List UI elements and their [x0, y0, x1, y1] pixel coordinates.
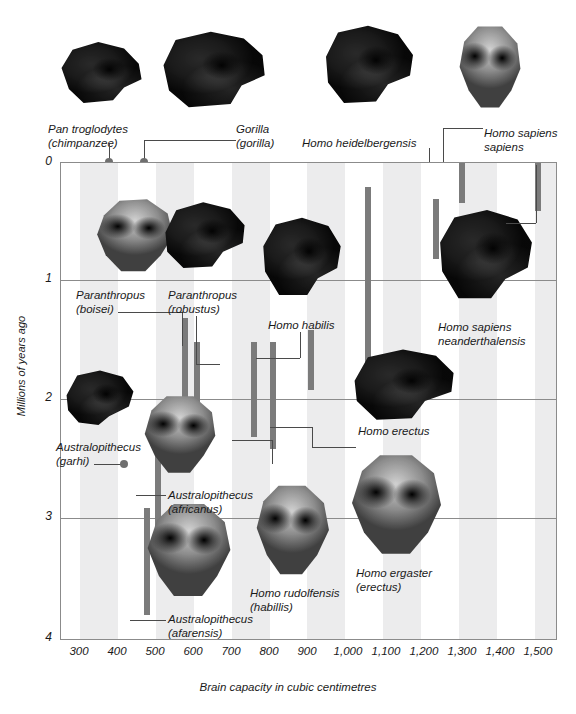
leader-habilis-h [256, 358, 300, 359]
label-homo-sapiens-neanderthalensis: Homo sapiens neanderthalensis [438, 320, 526, 348]
bar-homo-habilis [251, 342, 257, 437]
leader-afarensis-h [130, 620, 166, 621]
leader-erectus-h [270, 427, 312, 428]
leader-rudolfensis-v [272, 440, 273, 464]
label-line1: Paranthropus [168, 289, 237, 301]
ytick-3: 3 [0, 509, 52, 523]
label-line1: Homo rudolfensis [250, 587, 339, 599]
label-line2: (erectus) [356, 580, 432, 594]
top-label-line1: Homo sapiens [484, 127, 558, 139]
figure-root: Pan troglodytes (chimpanzee) Gorilla (go… [0, 0, 576, 714]
leader-gorilla-h [144, 140, 236, 141]
xtick-700: 700 [221, 645, 240, 657]
xtick-600: 600 [183, 645, 202, 657]
bar-homo-ergaster [308, 330, 314, 390]
label-line2: neanderthalensis [438, 334, 526, 348]
xtick-900: 900 [297, 645, 316, 657]
leader-garhi-h [94, 464, 122, 465]
ytick-4: 4 [0, 630, 52, 644]
xtick-1000: 1,000 [334, 645, 363, 657]
skull-gorilla [158, 30, 268, 114]
top-label-line1: Pan troglodytes [48, 123, 128, 135]
label-line2: (afarensis) [168, 626, 253, 640]
label-line2: (garhi) [56, 454, 141, 468]
leader-rudolfensis-h [232, 440, 272, 441]
skull-homo-heidelbergensis [318, 24, 418, 110]
xtick-400: 400 [107, 645, 126, 657]
top-label-line2: sapiens [484, 140, 558, 154]
label-line1: Paranthropus [76, 289, 145, 301]
label-line1: Homo erectus [358, 425, 430, 437]
leader-erectus-h2 [312, 447, 356, 448]
label-line1: Australopithecus [168, 489, 253, 501]
leader-africanus-h [136, 495, 166, 496]
top-label-gorilla: Gorilla (gorilla) [236, 122, 274, 150]
top-label-line2: (chimpanzee) [48, 136, 128, 150]
leader-neanderthal-v [536, 165, 537, 223]
label-australopithecus-afarensis: Australopithecus (afarensis) [168, 612, 253, 640]
x-axis-title: Brain capacity in cubic centimetres [0, 681, 576, 693]
gridline-2ma [61, 399, 556, 400]
xtick-300: 300 [69, 645, 88, 657]
leader-habilis-v [300, 332, 301, 358]
leader-boisei-v [182, 312, 183, 346]
label-line2: (boisei) [76, 302, 145, 316]
bar-australopithecus-afarensis [144, 508, 150, 615]
skull-homo-sapiens-sapiens [452, 22, 528, 112]
label-homo-habilis: Homo habilis [268, 318, 334, 332]
label-line2: (africanus) [168, 502, 253, 516]
label-homo-ergaster: Homo ergaster (erectus) [356, 566, 432, 594]
background-band [535, 163, 556, 639]
leader-erectus-v [312, 427, 313, 447]
y-axis-title: Millions of years ago [15, 296, 27, 436]
ytick-0: 0 [0, 154, 52, 168]
top-label-pan-troglodytes: Pan troglodytes (chimpanzee) [48, 122, 128, 150]
leader-sapiens-sapiens-h [443, 128, 483, 129]
label-line1: Australopithecus [56, 441, 141, 453]
top-label-line1: Homo heidelbergensis [302, 137, 416, 149]
top-label-homo-sapiens-sapiens: Homo sapiens sapiens [484, 126, 558, 154]
label-homo-erectus: Homo erectus [358, 424, 430, 438]
label-line1: Homo sapiens [438, 321, 512, 333]
leader-neanderthal-h [506, 223, 536, 224]
dot-australopithecus-garhi [120, 460, 128, 468]
leader-robustus-h [196, 364, 220, 365]
label-line2: (habillis) [250, 600, 339, 614]
bar-homo-erectus [365, 187, 371, 365]
xtick-800: 800 [259, 645, 278, 657]
xtick-500: 500 [145, 645, 164, 657]
top-label-line1: Gorilla [236, 123, 269, 135]
bar-homo-heidelbergensis [433, 199, 439, 259]
xtick-1500: 1,500 [524, 645, 553, 657]
label-line2: (robustus) [168, 302, 237, 316]
label-line1: Australopithecus [168, 613, 253, 625]
label-homo-rudolfensis: Homo rudolfensis (habillis) [250, 586, 339, 614]
ytick-1: 1 [0, 271, 52, 285]
top-label-homo-heidelbergensis: Homo heidelbergensis [302, 136, 416, 150]
xtick-1300: 1,300 [448, 645, 477, 657]
xtick-1400: 1,400 [486, 645, 515, 657]
label-australopithecus-africanus: Australopithecus (africanus) [168, 488, 253, 516]
bar-homo-sapiens-sapiens [459, 163, 465, 203]
xtick-1100: 1,100 [372, 645, 401, 657]
skull-pan-troglodytes [56, 40, 148, 110]
label-paranthropus-robustus: Paranthropus (robustus) [168, 288, 237, 316]
label-line1: Homo ergaster [356, 567, 432, 579]
leader-sapiens-sapiens-v [443, 128, 444, 164]
leader-robustus-v [196, 316, 197, 364]
top-label-line2: (gorilla) [236, 136, 274, 150]
label-line1: Homo habilis [268, 319, 334, 331]
xtick-1200: 1,200 [410, 645, 439, 657]
